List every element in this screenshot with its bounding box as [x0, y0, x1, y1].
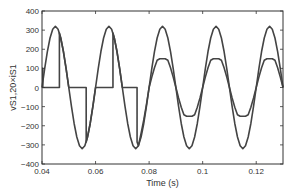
- series-layer: [42, 26, 283, 148]
- x-tick-label: 0.06: [88, 167, 104, 176]
- y-tick-label: 0: [35, 84, 40, 93]
- y-tick-label: 300: [26, 26, 40, 35]
- y-tick-label: 400: [26, 7, 40, 16]
- y-tick-label: 100: [26, 64, 40, 73]
- x-tick-label: 0.1: [197, 167, 209, 176]
- y-tick-label: −200: [21, 122, 40, 131]
- chart: 0.040.060.080.10.12 4003002001000−100−20…: [0, 0, 293, 195]
- x-axis-label: Time (s): [146, 178, 179, 188]
- y-tick-label: −300: [21, 141, 40, 150]
- x-tick-label: 0.08: [141, 167, 157, 176]
- y-axis-label: vS1,20×iS1: [8, 64, 18, 110]
- series-line-current: [42, 33, 283, 146]
- y-tick-label: 200: [26, 45, 40, 54]
- y-axis-ticks: 4003002001000−100−200−300−400: [21, 7, 283, 169]
- x-tick-label: 0.12: [248, 167, 264, 176]
- y-tick-label: −400: [21, 160, 40, 169]
- y-tick-label: −100: [21, 103, 40, 112]
